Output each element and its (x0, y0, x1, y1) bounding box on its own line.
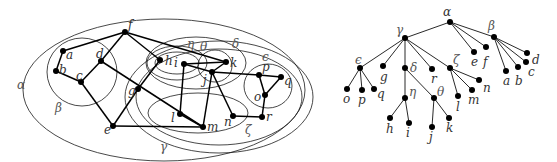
edge-n-r (233, 116, 262, 117)
tree-label-zeta: ζ (453, 53, 461, 67)
tree-node-alpha (447, 19, 453, 25)
region-gamma-inner (136, 49, 302, 145)
edge-q-o (265, 77, 281, 95)
tree-label-f: f (482, 55, 490, 69)
tree-edge-zeta-n (450, 68, 479, 80)
tree-label-c: c (528, 65, 535, 79)
edge-l-m (180, 114, 203, 127)
node-o (262, 92, 268, 98)
label-alpha: α (17, 78, 25, 92)
node-label-p: p (262, 60, 270, 74)
tree-edges (347, 22, 527, 127)
node-label-i: i (174, 56, 178, 70)
node-label-n: n (224, 115, 232, 129)
node-label-l: l (171, 111, 175, 125)
tree-label-alpha: α (443, 5, 451, 19)
tree-node-h (387, 115, 393, 121)
node-j (209, 69, 215, 75)
edge-r-o (262, 95, 265, 117)
tree-edge-alpha-gamma (405, 22, 450, 38)
tree-node-f (483, 44, 489, 50)
edge-i-k (184, 62, 226, 64)
edge-p-q (259, 75, 281, 77)
tree-label-k: k (446, 121, 453, 135)
node-label-d: d (96, 47, 104, 61)
tree-node-l (455, 93, 461, 99)
tree-edge-alpha-f (450, 22, 486, 47)
label-beta: β (54, 101, 62, 115)
tree-label-delta: δ (410, 61, 417, 75)
tree-labels: α β γ e f a b c d ϵ g δ r ζ o p q η θ h … (343, 5, 540, 144)
tree-label-n: n (483, 81, 491, 95)
figure: α β γ δ ϵ ζ η θ (0, 0, 557, 162)
node-label-h: h (165, 54, 173, 68)
node-label-o: o (254, 90, 261, 104)
node-label-e: e (104, 123, 111, 137)
edge-h-g (138, 60, 160, 89)
region-labels: α β γ δ ϵ ζ η θ (17, 37, 269, 154)
label-eta: η (187, 37, 195, 51)
tree-node-g (380, 63, 386, 69)
node-l (177, 111, 183, 117)
region-gamma (125, 41, 313, 153)
tree-label-theta: θ (437, 85, 445, 99)
tree-node-eta (402, 95, 408, 101)
node-label-r: r (266, 110, 273, 124)
tree-node-n (476, 77, 482, 83)
tree-label-j: j (426, 130, 433, 144)
tree-label-h: h (386, 122, 394, 136)
node-label-k: k (230, 56, 237, 70)
tree-label-l: l (456, 100, 460, 114)
tree-edge-eta-h (390, 98, 405, 118)
node-label-m: m (207, 120, 218, 134)
node-r (259, 114, 265, 120)
tree-edge-epsilon-o (347, 68, 360, 89)
node-i (181, 61, 187, 67)
node-k (223, 59, 229, 65)
tree-edge-theta-k (434, 98, 449, 118)
tree-label-d: d (532, 53, 540, 67)
label-zeta: ζ (245, 123, 253, 137)
label-delta: δ (232, 37, 239, 51)
node-m (200, 124, 206, 130)
tree-label-g: g (380, 70, 388, 84)
label-theta: θ (200, 40, 208, 54)
node-label-b: b (59, 63, 67, 77)
edge-j-p (212, 72, 259, 75)
edge-f-h (125, 32, 160, 60)
node-h (157, 57, 163, 63)
label-gamma: γ (160, 140, 168, 154)
tree-label-epsilon: ϵ (355, 53, 362, 67)
tree-label-o: o (343, 92, 350, 106)
tree-label-eta: η (409, 85, 417, 99)
tree-label-b: b (515, 74, 523, 88)
node-label-g: g (128, 84, 136, 98)
tree-node-d (524, 50, 530, 56)
edge-c-e (81, 82, 113, 126)
tree-label-a: a (503, 74, 510, 88)
tree-label-m: m (468, 93, 479, 107)
edge-e-m (113, 126, 203, 127)
tree-edge-gamma-g (383, 38, 405, 66)
tree-edge-epsilon-q (360, 68, 374, 89)
tree-node-delta (402, 65, 408, 71)
edge-i-l (180, 64, 184, 114)
node-label-c: c (76, 69, 83, 83)
node-g (135, 86, 141, 92)
tree-label-q: q (377, 87, 385, 101)
node-label-f: f (127, 18, 135, 32)
tree-node-beta (491, 34, 497, 40)
tree-label-beta: β (487, 19, 495, 33)
tree-edge-theta-j (432, 98, 434, 127)
tree-edge-beta-b (494, 37, 518, 67)
tree-label-gamma: γ (396, 23, 404, 37)
edge-c-d (81, 61, 101, 82)
node-label-q: q (284, 74, 292, 88)
tree-label-e: e (471, 55, 478, 69)
tree-label-i: i (406, 126, 410, 140)
node-label-a: a (66, 48, 73, 62)
tree-node-b (515, 64, 521, 70)
tree-label-p: p (358, 93, 366, 107)
tree-label-r: r (431, 72, 438, 86)
tree-edge-eta-i (405, 98, 409, 123)
